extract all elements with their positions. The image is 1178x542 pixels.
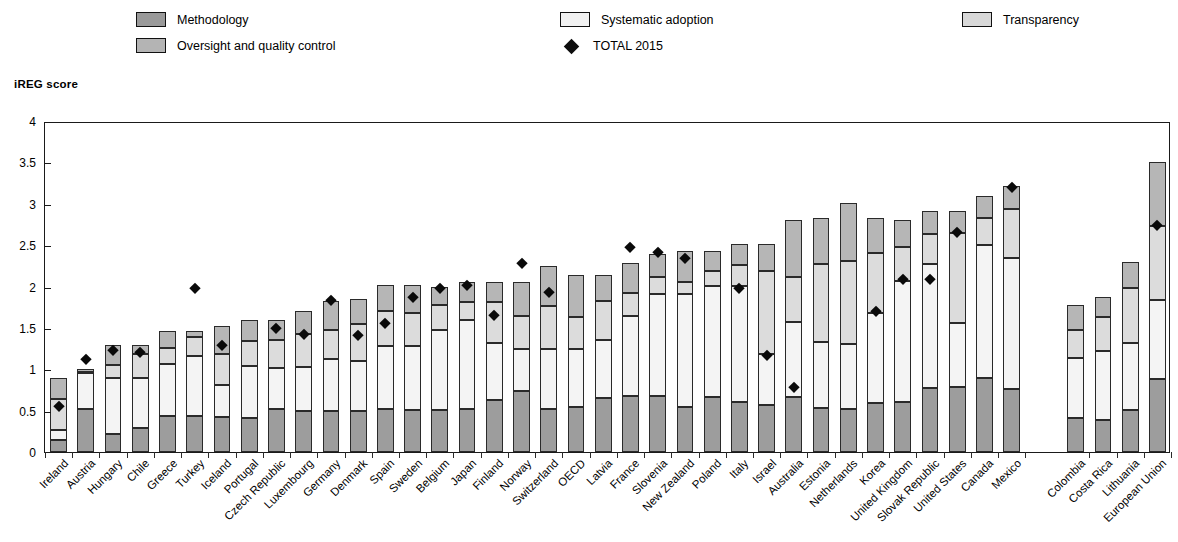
square-swatch-icon xyxy=(136,38,166,53)
bar-segment-transparency xyxy=(459,302,476,320)
bar-segment-transparency xyxy=(431,305,448,330)
bar-denmark[interactable] xyxy=(350,121,367,452)
x-axis-label-text: Ireland xyxy=(37,457,70,490)
legend-item-transparency[interactable]: Transparency xyxy=(962,12,1079,27)
legend-item-systematic-adoption[interactable]: Systematic adoption xyxy=(560,12,714,27)
bar-segment-systematic-adoption xyxy=(159,364,176,416)
bar-segment-transparency xyxy=(922,234,939,265)
legend-item-total-2015[interactable]: TOTAL 2015 xyxy=(566,39,663,53)
bar-slovak-republic[interactable] xyxy=(922,121,939,452)
bar-lithuania[interactable] xyxy=(1122,121,1139,452)
y-axis-tick-mark xyxy=(44,246,51,247)
bar-segment-systematic-adoption xyxy=(677,294,694,407)
bar-segment-systematic-adoption xyxy=(622,316,639,395)
square-swatch-icon xyxy=(136,12,166,27)
plot-area xyxy=(44,122,1170,453)
bar-segment-oversight-and-quality-control xyxy=(704,251,721,271)
bar-estonia[interactable] xyxy=(813,121,830,452)
bar-segment-transparency xyxy=(758,271,775,354)
bar-czech-republic[interactable] xyxy=(268,121,285,452)
y-axis-tick-label: 1.5 xyxy=(0,322,36,336)
bar-segment-transparency xyxy=(949,233,966,323)
bar-segment-oversight-and-quality-control xyxy=(894,220,911,246)
bar-segment-oversight-and-quality-control xyxy=(159,331,176,348)
legend-item-oversight[interactable]: Oversight and quality control xyxy=(136,38,335,53)
y-axis-tick-label: 0 xyxy=(0,446,36,460)
bar-segment-transparency xyxy=(540,306,557,349)
bar-portugal[interactable] xyxy=(241,121,258,452)
bar-segment-oversight-and-quality-control xyxy=(622,263,639,294)
bar-luxembourg[interactable] xyxy=(295,121,312,452)
y-axis-tick-label: 2 xyxy=(0,281,36,295)
bar-segment-systematic-adoption xyxy=(813,342,830,408)
y-axis-tick-label: 4 xyxy=(0,115,36,129)
bar-segment-transparency xyxy=(813,264,830,342)
y-axis-tick-label: 2.5 xyxy=(0,239,36,253)
bar-norway[interactable] xyxy=(513,121,530,452)
bar-segment-transparency xyxy=(241,341,258,366)
bar-segment-systematic-adoption xyxy=(295,367,312,411)
bar-segment-oversight-and-quality-control xyxy=(377,285,394,311)
bar-austria[interactable] xyxy=(77,121,94,452)
legend-item-methodology[interactable]: Methodology xyxy=(136,12,249,27)
bar-colombia[interactable] xyxy=(1067,121,1084,452)
bar-segment-transparency xyxy=(1095,317,1112,351)
y-axis-tick-mark xyxy=(44,205,51,206)
bar-poland[interactable] xyxy=(704,121,721,452)
bar-sweden[interactable] xyxy=(404,121,421,452)
bar-chile[interactable] xyxy=(132,121,149,452)
bar-segment-systematic-adoption xyxy=(649,294,666,396)
bar-segment-transparency xyxy=(105,365,122,377)
bar-segment-oversight-and-quality-control xyxy=(568,275,585,317)
bar-segment-systematic-adoption xyxy=(595,340,612,398)
bar-european-union[interactable] xyxy=(1149,121,1166,452)
bar-new-zealand[interactable] xyxy=(677,121,694,452)
bar-segment-transparency xyxy=(404,313,421,346)
bar-iceland[interactable] xyxy=(214,121,231,452)
bar-segment-systematic-adoption xyxy=(704,286,721,398)
bar-segment-systematic-adoption xyxy=(50,430,67,441)
bar-segment-oversight-and-quality-control xyxy=(513,282,530,316)
y-axis-tick-mark xyxy=(44,370,51,371)
bars-layer xyxy=(45,123,1169,452)
bar-segment-transparency xyxy=(568,317,585,348)
bar-segment-systematic-adoption xyxy=(486,343,503,400)
bar-segment-systematic-adoption xyxy=(214,385,231,417)
bar-spain[interactable] xyxy=(377,121,394,452)
bar-korea[interactable] xyxy=(867,121,884,452)
bar-segment-oversight-and-quality-control xyxy=(350,299,367,324)
bar-segment-systematic-adoption xyxy=(241,366,258,418)
bar-segment-oversight-and-quality-control xyxy=(840,203,857,261)
bar-segment-oversight-and-quality-control xyxy=(976,196,993,218)
bar-segment-oversight-and-quality-control xyxy=(186,331,203,337)
bar-segment-systematic-adoption xyxy=(404,346,421,410)
bar-segment-systematic-adoption xyxy=(840,344,857,409)
bar-segment-systematic-adoption xyxy=(377,346,394,409)
bar-segment-systematic-adoption xyxy=(949,323,966,387)
bar-latvia[interactable] xyxy=(595,121,612,452)
bar-australia[interactable] xyxy=(785,121,802,452)
y-axis-tick-mark xyxy=(44,288,51,289)
bar-segment-oversight-and-quality-control xyxy=(1122,262,1139,288)
bar-israel[interactable] xyxy=(758,121,775,452)
bar-france[interactable] xyxy=(622,121,639,452)
bar-segment-transparency xyxy=(323,330,340,359)
bar-slovenia[interactable] xyxy=(649,121,666,452)
bar-hungary[interactable] xyxy=(105,121,122,452)
bar-segment-oversight-and-quality-control xyxy=(731,244,748,265)
bar-segment-transparency xyxy=(785,277,802,323)
bar-segment-transparency xyxy=(622,293,639,316)
bar-segment-systematic-adoption xyxy=(1067,358,1084,418)
bar-finland[interactable] xyxy=(486,121,503,452)
bar-segment-oversight-and-quality-control xyxy=(758,244,775,270)
bar-segment-transparency xyxy=(214,354,231,385)
bar-greece[interactable] xyxy=(159,121,176,452)
square-swatch-icon xyxy=(962,12,992,27)
bar-segment-transparency xyxy=(377,311,394,346)
bar-oecd[interactable] xyxy=(568,121,585,452)
bar-costa-rica[interactable] xyxy=(1095,121,1112,452)
bar-netherlands[interactable] xyxy=(840,121,857,452)
bar-segment-oversight-and-quality-control xyxy=(486,282,503,302)
bar-united-kingdom[interactable] xyxy=(894,121,911,452)
bar-mexico[interactable] xyxy=(1003,121,1020,452)
